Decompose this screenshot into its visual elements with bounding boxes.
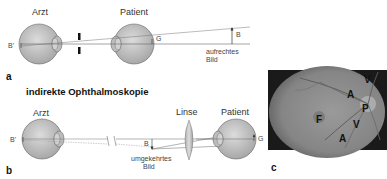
ophthalmoscopy-figure: Arzt Patient B' G B aufrechtes Bild a in… [0,0,387,179]
image-label-b: B [144,140,149,148]
image-caption-a-line1: aufrechtes [206,48,239,56]
doctor-label-b: Arzt [33,109,49,118]
object-label-b: G [258,135,263,143]
image-point-label-a: B' [8,42,14,50]
panel-label-a: a [6,72,12,82]
fundus-label-vein-top: V [364,75,371,85]
image-label-a: B [236,31,241,39]
condensing-lens-icon [185,120,193,160]
patient-label-b: Patient [221,108,249,117]
panel-label-b: b [6,166,12,176]
panel-b-graphics [22,119,256,160]
fundus-label-artery-bottom: A [339,134,346,144]
image-caption-b-line2: Bild [143,163,155,171]
panel-b-title: indirekte Ophthalmoskopie [26,87,148,97]
image-point-label-b: B' [10,136,16,144]
fundus-label-artery-top: A [347,90,354,100]
image-caption-a-line2: Bild [206,56,218,64]
panel-label-c: c [271,163,277,173]
fundus-label-fovea: F [316,115,322,125]
patient-label-a: Patient [120,8,148,17]
aperture-bottom-icon [78,47,81,54]
image-caption-b-line1: umgekehrtes [131,155,171,163]
object-label-a: G [156,35,161,43]
aperture-top-icon [78,33,81,40]
lens-label: Linse [176,108,198,117]
fundus-label-vein-bottom: V [353,120,360,130]
doctor-label-a: Arzt [32,8,48,17]
fundus-label-papilla: P [362,104,369,114]
